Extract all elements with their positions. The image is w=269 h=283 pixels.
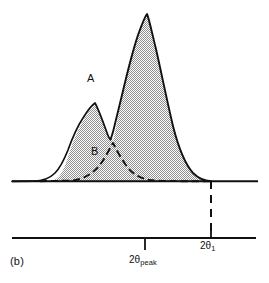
curve-a-label: A	[87, 73, 94, 84]
tick-label-two-theta-peak: 2θpeak	[129, 255, 157, 266]
panel-label: (b)	[10, 256, 24, 267]
figure-panel-b: A B 2θpeak 2θ1 (b)	[0, 0, 269, 283]
tick-label-two-theta-1-subscript: 1	[211, 244, 215, 253]
tick-label-two-theta-peak-subscript: peak	[140, 258, 157, 267]
tick-label-two-theta-1-prefix: 2θ	[200, 240, 211, 251]
diffraction-profile-chart	[0, 0, 269, 283]
composite-peak-shaded-area	[52, 14, 211, 181]
tick-label-two-theta-peak-prefix: 2θ	[129, 254, 140, 265]
curve-b-label: B	[91, 146, 98, 157]
tick-label-two-theta-1: 2θ1	[200, 241, 215, 252]
